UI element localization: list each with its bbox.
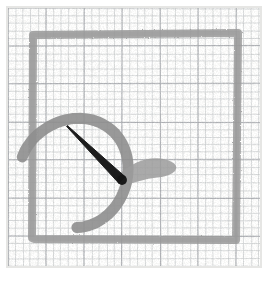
sketch-image: A pencil sketch on graph paper showing a… <box>0 0 274 281</box>
pencil-sketch-layer <box>0 0 274 281</box>
